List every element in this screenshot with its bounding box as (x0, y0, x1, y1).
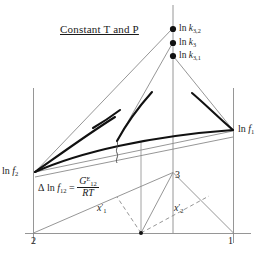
label-ln-k-3: ln k3 (179, 38, 196, 48)
ln-prefix: ln (179, 50, 189, 60)
ln-prefix: ln (2, 165, 12, 176)
dot-base-foot (139, 231, 143, 235)
construction-lines (25, 5, 251, 243)
fraction-denominator: RT (77, 187, 99, 199)
delta-symbol: Δ (38, 182, 44, 193)
label-ln-f-1: ln f1 (238, 124, 254, 135)
k-subscript: 3 (193, 41, 196, 48)
x-subscript: 2 (180, 207, 183, 214)
f-subscript: 1 (251, 128, 254, 135)
tie-line-foot-to-3 (141, 173, 173, 234)
brace-delta-ln-f12 (116, 141, 117, 163)
k-subscript: 3,2 (193, 27, 201, 34)
label-ln-k-3-1: ln k3,1 (179, 51, 201, 61)
curve-right-to-f1 (192, 93, 233, 130)
equals-sign: = (69, 182, 75, 193)
k-subscript: 3,1 (193, 54, 201, 61)
label-ln-f-2: ln f2 (2, 166, 18, 177)
composition-dashed-lines (117, 196, 209, 233)
label-x-1-prime: x′1 (97, 203, 107, 214)
f-subscript: 12 (60, 187, 67, 194)
f-subscript: 2 (15, 170, 18, 177)
dashed-x1-prime (117, 197, 141, 233)
curve-center-rising (117, 92, 152, 141)
fugacity-curves (35, 92, 233, 172)
dot-ln-k-3-1 (170, 53, 176, 59)
corner-label-2: 2 (31, 236, 36, 246)
label-x-2-prime: x′2 (174, 203, 184, 214)
ln-prefix: ln (179, 37, 189, 47)
ternary-fugacity-diagram: Constant T and P ln k3,2 ln k3 ln k3,1 l… (0, 0, 265, 254)
label-ln-k-3-2: ln k3,2 (179, 24, 201, 34)
corner-label-1: 1 (228, 236, 233, 246)
diagram-canvas (0, 0, 265, 254)
dot-ln-k-3 (170, 40, 176, 46)
tangent-segment-left (93, 110, 120, 128)
ln-prefix: ln (179, 23, 189, 33)
fraction-numerator: GE12 (77, 176, 99, 187)
dot-ln-k-3-2 (170, 26, 176, 32)
ln-prefix: ln (238, 123, 248, 134)
ln-prefix: ln (47, 182, 57, 193)
gibbs-excess-fraction: GE12 RT (77, 176, 99, 198)
page-title: Constant T and P (60, 24, 139, 35)
corner-label-3: 3 (175, 170, 180, 180)
equation-delta-ln-f12: Δ ln f12 = GE12 RT (38, 176, 99, 198)
g-subscript: 12 (90, 180, 97, 187)
rt-symbol: RT (82, 187, 94, 198)
thin-line-f1-to-k31 (174, 57, 233, 130)
x-subscript: 1 (103, 207, 106, 214)
